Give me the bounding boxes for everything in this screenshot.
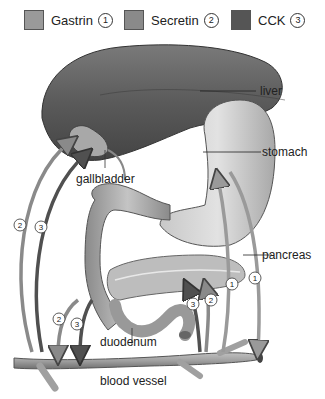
blood-vessel — [14, 353, 262, 369]
marker-left-cck: 3 — [35, 221, 47, 233]
label-gallbladder: gallbladder — [76, 172, 135, 186]
marker-gastrin-up: 1 — [226, 278, 238, 290]
svg-text:3: 3 — [39, 223, 44, 232]
marker-pancreas-cck: 3 — [187, 298, 199, 310]
svg-text:3: 3 — [191, 300, 196, 309]
marker-gastrin-down: 1 — [249, 272, 261, 284]
label-stomach: stomach — [262, 145, 307, 159]
marker-pancreas-secretin: 2 — [205, 294, 217, 306]
svg-text:2: 2 — [209, 296, 214, 305]
svg-text:2: 2 — [18, 221, 23, 230]
svg-text:3: 3 — [75, 320, 80, 329]
svg-text:2: 2 — [57, 315, 62, 324]
marker-lower-cck: 3 — [71, 318, 83, 330]
label-duodenum: duodenum — [100, 335, 157, 349]
duodenum — [115, 305, 189, 335]
marker-lower-secretin: 2 — [53, 313, 65, 325]
label-pancreas: pancreas — [262, 248, 311, 262]
label-liver: liver — [260, 84, 282, 98]
svg-text:1: 1 — [230, 280, 235, 289]
svg-text:1: 1 — [253, 274, 258, 283]
label-blood-vessel: blood vessel — [100, 374, 167, 388]
marker-left-secretin: 2 — [14, 219, 26, 231]
digestive-hormone-diagram: 2 3 2 3 3 2 1 1 — [0, 0, 325, 399]
